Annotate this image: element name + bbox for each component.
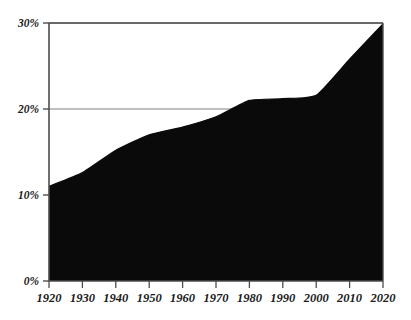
x-tick-label-1950: 1950 xyxy=(137,291,163,305)
x-tick-label-2010: 2010 xyxy=(336,291,363,305)
area-chart-svg: 0%10%20%30% 1920193019401950196019701980… xyxy=(0,0,411,320)
x-tick-label-1930: 1930 xyxy=(70,291,96,305)
x-tick-label-1920: 1920 xyxy=(37,291,63,305)
chart-container: 0%10%20%30% 1920193019401950196019701980… xyxy=(0,0,411,320)
y-tick-label-20%: 20% xyxy=(17,103,39,115)
y-tick-label-0%: 0% xyxy=(24,275,39,287)
x-tick-label-2020: 2020 xyxy=(370,291,397,305)
y-tick-label-30%: 30% xyxy=(17,17,39,29)
x-tick-label-1990: 1990 xyxy=(270,291,296,305)
y-tick-label-10%: 10% xyxy=(18,189,39,201)
x-tick-label-1980: 1980 xyxy=(237,291,263,305)
x-tick-label-2000: 2000 xyxy=(303,291,330,305)
x-tick-label-1940: 1940 xyxy=(103,291,129,305)
x-tick-label-1970: 1970 xyxy=(204,291,230,305)
x-tick-label-1960: 1960 xyxy=(170,291,196,305)
